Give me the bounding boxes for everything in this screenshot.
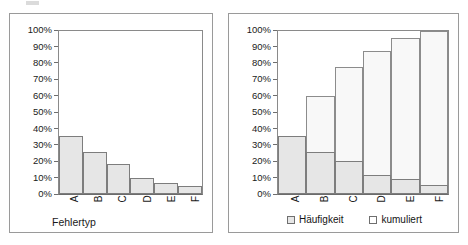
- x-category-c: C: [106, 197, 130, 219]
- bar-slot-e: [391, 31, 419, 194]
- x-category-label: C: [349, 195, 359, 202]
- cumulative-bar-f[interactable]: [420, 31, 448, 194]
- right-bars: [278, 31, 448, 194]
- x-category-label: B: [94, 196, 104, 203]
- y-tick-label: 70%: [33, 74, 52, 84]
- y-tick-label: 40%: [33, 123, 52, 133]
- frequency-bar-a[interactable]: [278, 136, 306, 194]
- left-chart-panel: 100% 90% 80% 70% 60% 50% 40% 30% 20% 10%…: [9, 13, 213, 233]
- legend-label: kumuliert: [381, 215, 422, 225]
- y-tick-label: 80%: [252, 58, 271, 68]
- y-tick-label: 70%: [252, 74, 271, 84]
- x-category-label: F: [435, 196, 445, 202]
- frequency-bar-b[interactable]: [306, 152, 334, 194]
- bar-slot-f: [178, 31, 202, 194]
- x-category-label: A: [70, 196, 80, 203]
- frequency-bar-d[interactable]: [363, 175, 391, 194]
- x-category-label: C: [118, 195, 128, 202]
- bar-slot-c: [335, 31, 363, 194]
- x-category-label: E: [406, 196, 416, 203]
- bar-slot-b: [83, 31, 107, 194]
- frequency-bar-e[interactable]: [391, 179, 419, 194]
- y-tick-label: 30%: [33, 140, 52, 150]
- y-tick-label: 20%: [33, 156, 52, 166]
- legend-item-kumuliert[interactable]: kumuliert: [369, 215, 422, 225]
- x-axis-title: Fehlertyp: [52, 216, 96, 228]
- frequency-bar-e[interactable]: [154, 183, 178, 194]
- y-tick-label: 60%: [252, 90, 271, 100]
- bar-slot-e: [154, 31, 178, 194]
- frequency-bar-c[interactable]: [107, 164, 131, 194]
- x-category-label: D: [377, 195, 387, 202]
- y-tick-label: 100%: [28, 25, 52, 35]
- x-category-label: D: [143, 195, 153, 202]
- frequency-bar-b[interactable]: [83, 152, 107, 194]
- bar-slot-d: [130, 31, 154, 194]
- y-tick-label: 40%: [252, 123, 271, 133]
- left-chart: 100% 90% 80% 70% 60% 50% 40% 30% 20% 10%…: [10, 14, 212, 232]
- right-chart: 100% 90% 80% 70% 60% 50% 40% 30% 20% 10%…: [229, 14, 458, 232]
- right-plot-area: [277, 30, 449, 195]
- frequency-bar-a[interactable]: [59, 136, 83, 194]
- y-tick-label: 60%: [33, 90, 52, 100]
- x-category-label: B: [320, 196, 330, 203]
- bar-slot-a: [59, 31, 83, 194]
- x-category-label: F: [191, 196, 201, 202]
- y-tick-label: 90%: [33, 41, 52, 51]
- cumulative-bar-e[interactable]: [391, 38, 419, 194]
- x-category-e: E: [155, 197, 179, 219]
- right-chart-panel: 100% 90% 80% 70% 60% 50% 40% 30% 20% 10%…: [228, 13, 459, 233]
- x-category-f: F: [179, 197, 203, 219]
- bar-slot-c: [107, 31, 131, 194]
- frequency-bar-f[interactable]: [420, 185, 448, 194]
- y-tick-label: 20%: [252, 156, 271, 166]
- bar-slot-a: [278, 31, 306, 194]
- y-tick-label: 10%: [33, 172, 52, 182]
- x-category-label: E: [167, 196, 177, 203]
- bar-slot-f: [420, 31, 448, 194]
- cumulative-swatch-icon: [369, 216, 377, 224]
- y-tick-label: 80%: [33, 58, 52, 68]
- x-category-d: D: [131, 197, 155, 219]
- left-y-axis-labels: 100% 90% 80% 70% 60% 50% 40% 30% 20% 10%…: [10, 14, 58, 232]
- x-category-label: A: [291, 196, 301, 203]
- bar-slot-d: [363, 31, 391, 194]
- y-tick-label: 90%: [252, 41, 271, 51]
- y-tick-label: 0%: [257, 189, 271, 199]
- y-tick-label: 0%: [38, 189, 52, 199]
- frequency-bar-d[interactable]: [130, 178, 154, 194]
- bar-slot-b: [306, 31, 334, 194]
- y-tick-label: 50%: [252, 107, 271, 117]
- frequency-swatch-icon: [287, 216, 295, 224]
- chart-legend: Häufigkeit kumuliert: [287, 215, 452, 225]
- frequency-bar-f[interactable]: [178, 186, 202, 194]
- cumulative-bar-d[interactable]: [363, 51, 391, 194]
- left-plot-area: [58, 30, 203, 195]
- frequency-bar-c[interactable]: [335, 161, 363, 194]
- y-tick-label: 100%: [247, 25, 271, 35]
- right-y-axis-labels: 100% 90% 80% 70% 60% 50% 40% 30% 20% 10%…: [229, 14, 277, 232]
- left-bars: [59, 31, 202, 194]
- y-tick-label: 10%: [252, 172, 271, 182]
- y-tick-label: 30%: [252, 140, 271, 150]
- legend-item-haeufigkeit[interactable]: Häufigkeit: [287, 215, 343, 225]
- legend-label: Häufigkeit: [299, 215, 343, 225]
- figure-panels: 100% 90% 80% 70% 60% 50% 40% 30% 20% 10%…: [0, 0, 468, 245]
- y-tick-label: 50%: [33, 107, 52, 117]
